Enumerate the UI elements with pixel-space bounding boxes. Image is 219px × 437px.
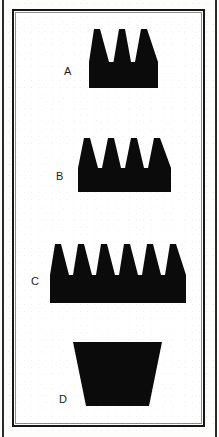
shape-label-d: D — [59, 394, 67, 405]
shape-b-crown-4-peaks — [78, 136, 171, 192]
left-margin-rule — [2, 0, 4, 437]
shape-a-crown-3-peaks — [89, 27, 158, 88]
figure-canvas: A B C D — [0, 0, 219, 437]
shape-label-a: A — [64, 66, 71, 77]
figure-plate-frame: A B C D — [12, 9, 205, 427]
right-margin-rule — [215, 0, 217, 437]
shape-label-b: B — [56, 171, 63, 182]
shape-d-inverted-trapezoid — [73, 342, 162, 406]
shape-label-c: C — [31, 276, 39, 287]
shape-c-crown-6-peaks — [50, 242, 186, 303]
